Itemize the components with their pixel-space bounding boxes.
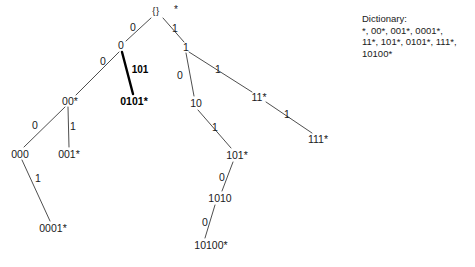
tree-node-n1010: 1010: [208, 193, 231, 204]
dictionary-line-1: *, 00*, 001*, 0001*,: [362, 25, 474, 37]
trie-figure: {}*0100*0101*000001*0001*1011*111*101*10…: [0, 0, 475, 267]
tree-edge-n000-to-n0001: [22, 160, 50, 221]
edge-lines: [22, 18, 312, 238]
tree-edge-n00-to-n001: [68, 107, 69, 147]
tree-node-root: {}: [152, 6, 159, 16]
edge-label-root-to-n0: 0: [130, 22, 136, 33]
edge-label-n0-to-n00: 0: [100, 56, 106, 67]
dictionary-line-3: 10100*: [362, 48, 474, 60]
edge-label-root-to-n1: 1: [172, 23, 178, 34]
edge-label-n10-to-n101: 1: [212, 122, 218, 133]
edge-label-n1010-to-n10100: 0: [202, 217, 208, 228]
tree-node-n10100: 10100*: [194, 240, 227, 251]
edge-label-n1-to-n10: 0: [177, 70, 183, 81]
dictionary-line-2: 11*, 101*, 0101*, 111*,: [362, 36, 474, 48]
edge-label-n101-to-n1010: 0: [219, 172, 225, 183]
tree-node-n00: 00*: [62, 96, 78, 107]
edge-label-n11-to-n111: 1: [284, 109, 290, 120]
tree-node-n001: 001*: [58, 149, 80, 160]
dictionary-panel: Dictionary: *, 00*, 001*, 0001*, 11*, 10…: [362, 13, 474, 59]
tree-node-n101: 101*: [226, 150, 248, 161]
edge-label-n0-to-n0101: 101: [132, 65, 149, 75]
tree-node-n1: 1: [183, 42, 189, 53]
edge-label-n000-to-n0001: 1: [35, 173, 41, 184]
tree-node-n0001: 0001*: [39, 223, 66, 234]
tree-edge-n1-to-n10: [186, 53, 194, 96]
tree-node-n111: 111*: [308, 134, 328, 145]
tree-node-n000: 000: [11, 149, 29, 160]
edge-label-n00-to-n000: 0: [32, 120, 38, 131]
tree-edge-n00-to-n000: [24, 107, 65, 147]
tree-node-n0: 0: [118, 40, 124, 51]
tree-node-n11: 11*: [252, 92, 267, 103]
tree-edge-n0-to-n00: [76, 52, 119, 95]
edge-label-n00-to-n001: 1: [70, 121, 76, 132]
tree-node-n0101: 0101*: [120, 96, 147, 107]
tree-node-n10: 10: [190, 98, 202, 109]
dictionary-title: Dictionary:: [362, 13, 474, 25]
root-star-icon: *: [174, 4, 178, 15]
edge-label-n1-to-n11: 1: [215, 64, 221, 75]
